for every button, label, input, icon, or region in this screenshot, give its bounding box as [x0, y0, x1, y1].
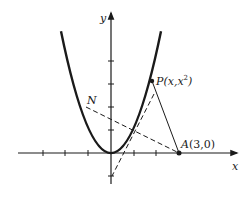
y-axis-label: y: [99, 12, 107, 25]
point-A-label: A(3,0): [180, 138, 215, 151]
point-P-label: P(x,x2): [155, 74, 192, 88]
normal-N-label: N: [86, 94, 97, 107]
y-axis: y: [99, 12, 114, 184]
point-P: [150, 79, 154, 83]
x-axis-label: x: [232, 160, 239, 173]
point-A: [177, 151, 182, 156]
segment-PA: [152, 81, 179, 153]
parabola-diagram: x y P(x,x2) A(3,0) N: [0, 0, 252, 199]
x-axis: x: [18, 150, 239, 173]
tangent-line-at-P: [112, 94, 154, 176]
